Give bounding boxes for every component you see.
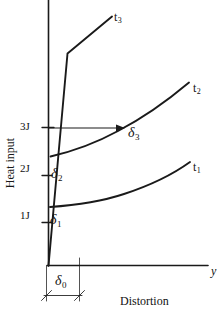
annotation-delta3: δ3 — [128, 126, 140, 142]
y-tick-label-2J: 2J — [20, 163, 30, 174]
annotation-delta2-sub: 2 — [58, 173, 63, 183]
curve-t2 — [51, 83, 190, 157]
y-tick-label-1J: 1J — [20, 210, 30, 221]
curve-label-t1: t1 — [193, 161, 201, 175]
annotation-delta2: δ2 — [51, 167, 63, 183]
plot-canvas — [0, 0, 222, 319]
y-axis-title: Heat input — [2, 118, 18, 208]
annotation-delta3-base: δ — [128, 125, 135, 140]
x-axis-symbol: y — [211, 265, 216, 277]
annotation-delta1: δ1 — [50, 213, 62, 229]
annotation-delta0-base: δ — [55, 273, 62, 288]
annotation-delta0: δ0 — [55, 274, 67, 290]
y-axis-title-text: Heat input — [3, 138, 18, 188]
annotation-delta1-sub: 1 — [57, 219, 62, 229]
annotation-delta0-sub: 0 — [62, 280, 67, 290]
annotation-delta1-base: δ — [50, 212, 57, 227]
curve-t1 — [50, 162, 190, 207]
annotation-delta3-sub: 3 — [135, 132, 140, 142]
curve-label-t3: t3 — [114, 11, 122, 25]
annotation-delta2-base: δ — [51, 166, 58, 181]
curve-label-t3-sub: 3 — [117, 16, 122, 25]
x-axis-caption: Distortion — [120, 295, 169, 307]
curve-label-t2-sub: 2 — [196, 87, 201, 96]
distortion-heat-input-figure: Heat input 3J 2J 1J t1 t2 t3 δ1 δ2 δ3 δ0… — [0, 0, 222, 319]
curve-label-t2: t2 — [193, 82, 201, 96]
curve-label-t1-sub: 1 — [196, 166, 201, 175]
y-tick-label-3J: 3J — [20, 121, 30, 132]
